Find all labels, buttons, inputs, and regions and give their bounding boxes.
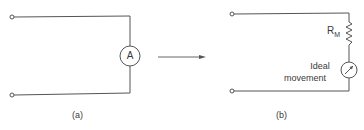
wire-b-top <box>234 13 349 14</box>
terminal-a-top <box>10 15 14 19</box>
movement-label-line1: Ideal <box>300 61 340 71</box>
wire-a-top <box>14 16 130 17</box>
movement-label-line2: movement <box>284 73 326 83</box>
caption-a: (a) <box>72 110 83 120</box>
terminal-b-bottom <box>230 89 234 93</box>
wire-a-bottom <box>14 93 130 95</box>
resistor-zigzag-icon <box>346 22 352 45</box>
terminal-b-top <box>230 12 234 16</box>
resistor-label-subscript: M <box>334 31 340 38</box>
terminal-a-bottom <box>10 93 14 97</box>
transform-arrow <box>158 55 206 59</box>
ammeter-symbol-label: A <box>120 51 140 61</box>
caption-b: (b) <box>276 110 287 120</box>
resistor-label: RM <box>327 26 340 40</box>
arrowhead-icon <box>199 55 206 59</box>
